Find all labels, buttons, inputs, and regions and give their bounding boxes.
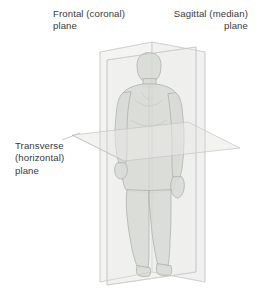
label-transverse-plane: Transverse (horizontal) plane bbox=[15, 140, 85, 177]
transverse-horizontal-plane bbox=[72, 122, 240, 161]
label-frontal-plane: Frontal (coronal) plane bbox=[53, 8, 145, 33]
anatomical-planes-figure: Frontal (coronal) plane Sagittal (median… bbox=[0, 0, 255, 301]
label-sagittal-plane: Sagittal (median) plane bbox=[150, 8, 248, 33]
